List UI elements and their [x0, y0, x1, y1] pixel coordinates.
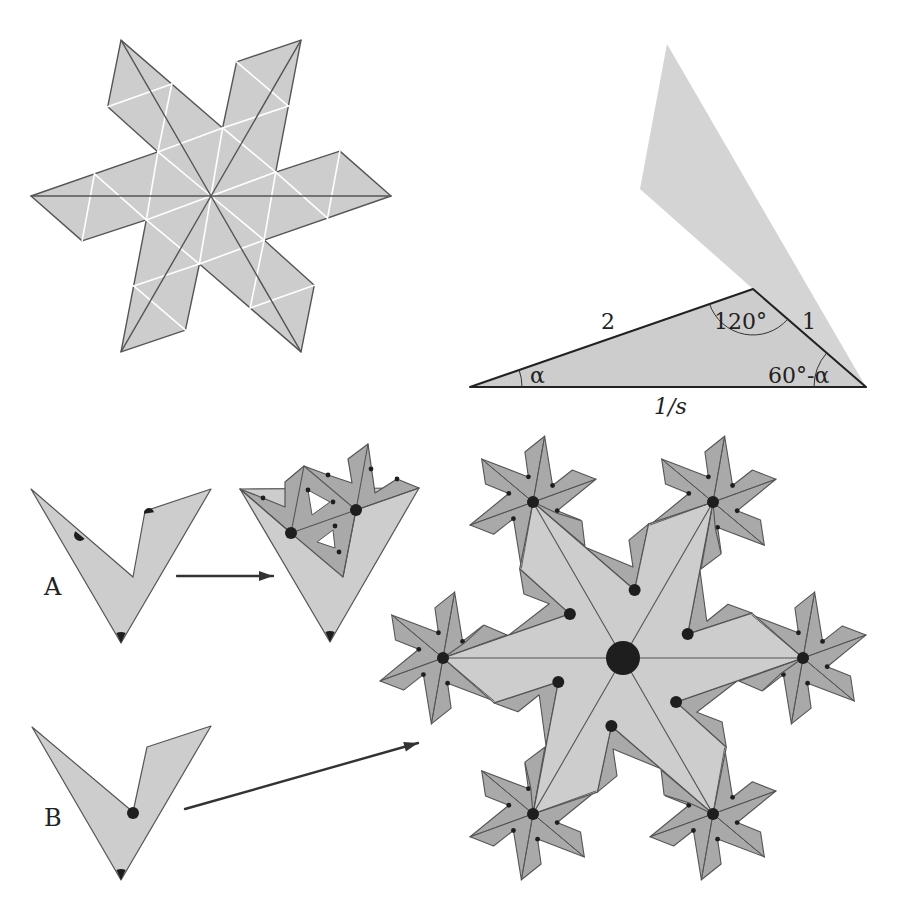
sub-star-vertex-dot [445, 681, 450, 686]
small-vertex-dot [369, 467, 374, 472]
sub-star-vertex-dot [730, 483, 735, 488]
main-star-center-dot [606, 641, 640, 675]
small-vertex-dot [395, 477, 400, 482]
sub-star-vertex-dot [691, 828, 696, 833]
arrow-b [185, 743, 418, 809]
sub-star-vertex-dot [805, 681, 810, 686]
sub-star-center-dot [437, 652, 449, 664]
sub-star-center-dot [527, 808, 539, 820]
fractal-snowflake-figure [380, 436, 866, 880]
small-vertex-dot [333, 524, 338, 529]
hexagram-net-figure [31, 40, 391, 352]
small-vertex-dot [306, 488, 311, 493]
main-star-vertex-dot [682, 628, 694, 640]
small-vertex-dot [261, 496, 266, 501]
main-star-vertex-dot [605, 720, 617, 732]
sub-star-vertex-dot [735, 820, 740, 825]
angle-label-120: 120° [714, 309, 767, 334]
sub-star-vertex-dot [555, 820, 560, 825]
sub-star-center-dot [527, 496, 539, 508]
sub-star-vertex-dot [820, 639, 825, 644]
sub-star-vertex-dot [506, 491, 511, 496]
panel-a-figure: A [31, 444, 419, 643]
sub-star-vertex-dot [416, 647, 421, 652]
vertex-dot [285, 527, 297, 539]
angle-label-alpha: α [530, 363, 545, 388]
side-label-2: 2 [601, 309, 615, 334]
main-star-vertex-dot [552, 676, 564, 688]
sub-star-center-dot [797, 652, 809, 664]
sub-star-vertex-dot [735, 508, 740, 513]
sub-star-vertex-dot [511, 516, 516, 521]
shape-b-source [32, 726, 211, 880]
arrow-a-head [259, 571, 273, 581]
base-label-1-over-s: 1/s [654, 394, 687, 419]
triangle-figure: 2 120° 1 α 60°-α 1/s [470, 44, 866, 419]
sub-star-vertex-dot [825, 664, 830, 669]
sub-star-vertex-dot [730, 795, 735, 800]
panel-label-b: B [44, 804, 62, 832]
sub-star-vertex-dot [511, 828, 516, 833]
sub-star-center-dot [707, 496, 719, 508]
sub-star-vertex-dot [796, 630, 801, 635]
arrow-b-head [403, 742, 418, 752]
sub-star-vertex-dot [686, 491, 691, 496]
panel-b-figure: B [32, 726, 418, 880]
sub-star-vertex-dot [421, 672, 426, 677]
side-label-1: 1 [802, 309, 816, 334]
sub-star-vertex-dot [715, 837, 720, 842]
angle-label-60-minus-alpha: 60°-α [768, 363, 829, 388]
small-vertex-dot [331, 500, 336, 505]
small-vertex-dot [326, 473, 331, 478]
sub-star-center-dot [707, 808, 719, 820]
vertex-dot [350, 504, 362, 516]
main-star-vertex-dot [564, 608, 576, 620]
sub-star-vertex-dot [706, 474, 711, 479]
sub-star-vertex-dot [436, 630, 441, 635]
sub-star-vertex-dot [550, 483, 555, 488]
vertex-dot [127, 807, 139, 819]
sub-star-vertex-dot [535, 837, 540, 842]
small-vertex-dot [337, 550, 342, 555]
main-star-vertex-dot [629, 584, 641, 596]
sub-star-vertex-dot [526, 474, 531, 479]
sub-star-vertex-dot [506, 803, 511, 808]
panel-label-a: A [43, 573, 62, 601]
shape-a-source [31, 489, 211, 643]
diagram-canvas: 2 120° 1 α 60°-α 1/s A B [0, 0, 897, 908]
main-star-vertex-dot [670, 696, 682, 708]
